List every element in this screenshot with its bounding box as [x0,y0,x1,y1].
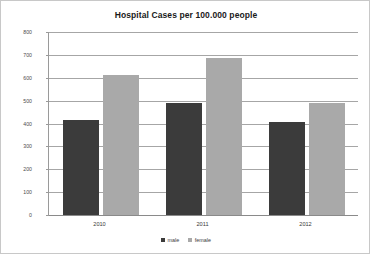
y-tick-mark [46,215,49,216]
y-tick-label: 100 [4,189,32,195]
y-tick-label: 0 [4,212,32,218]
legend-swatch-icon [161,238,165,242]
x-axis-label-2010: 2010 [48,221,151,227]
y-tick-label: 400 [4,121,32,127]
legend-swatch-icon [188,238,192,242]
bar-female-2012 [309,103,345,215]
legend-item-male[interactable]: male [161,237,179,243]
bar-female-2011 [206,58,242,215]
chart-title: Hospital Cases per 100.000 people [1,10,370,20]
bar-female-2010 [103,75,139,215]
chart-container: Hospital Cases per 100.000 people 010020… [0,0,370,254]
gridline [49,215,358,216]
bar-male-2010 [63,120,99,215]
bars-layer [49,32,358,215]
chart-legend: malefemale [1,237,370,243]
bar-male-2011 [166,103,202,215]
y-tick-label: 500 [4,98,32,104]
x-axis-label-2011: 2011 [151,221,254,227]
y-tick-label: 700 [4,52,32,58]
y-tick-label: 600 [4,75,32,81]
y-tick-label: 200 [4,166,32,172]
x-axis-label-2012: 2012 [254,221,357,227]
y-tick-label: 300 [4,143,32,149]
bar-male-2012 [269,122,305,215]
legend-label: male [168,237,180,243]
y-tick-label: 800 [4,29,32,35]
legend-label: female [195,237,211,243]
legend-item-female[interactable]: female [188,237,211,243]
plot-area: 0100200300400500600700800 [48,32,357,215]
